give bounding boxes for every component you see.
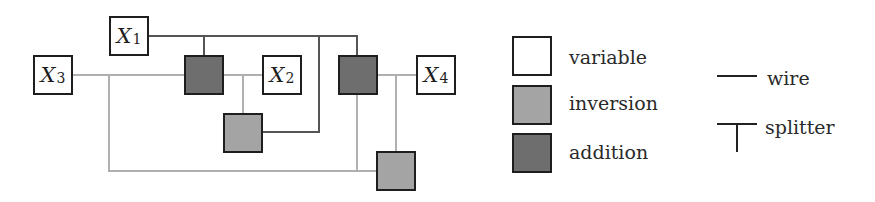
legend-addition-swatch — [512, 133, 552, 173]
var-index: 4 — [440, 70, 449, 86]
var-index: 3 — [57, 70, 66, 86]
variable-x4: X4 — [416, 55, 456, 95]
legend-inversion-label: inversion — [569, 94, 658, 113]
addition-gate-2 — [338, 55, 378, 95]
legend-variable-swatch — [512, 36, 552, 76]
variable-x3: X3 — [33, 55, 73, 95]
legend-splitter-label: splitter — [765, 118, 835, 137]
var-letter: X — [270, 63, 285, 87]
legend-wire-label: wire — [767, 69, 810, 88]
legend-variable-label: variable — [569, 48, 647, 67]
variable-x1: X1 — [109, 16, 149, 56]
legend-inversion-swatch — [512, 85, 552, 125]
inversion-gate-2 — [376, 151, 416, 191]
var-index: 2 — [286, 70, 295, 86]
var-index: 1 — [133, 31, 142, 47]
legend-addition-label: addition — [569, 143, 648, 162]
var-letter: X — [424, 63, 439, 87]
var-letter: X — [41, 63, 56, 87]
var-letter: X — [117, 24, 132, 48]
legend-splitter-icon — [717, 124, 757, 152]
wire-x1-bus — [148, 36, 357, 55]
inversion-gate-1 — [223, 113, 263, 153]
variable-x2: X2 — [262, 55, 302, 95]
circuit-diagram: X1 X3 X2 X4 variable inversion addition … — [0, 0, 875, 202]
addition-gate-1 — [184, 55, 224, 95]
